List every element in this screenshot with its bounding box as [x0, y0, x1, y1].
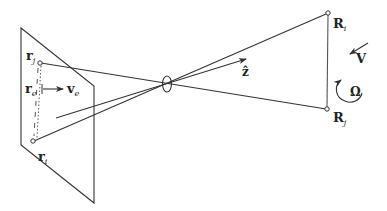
edge-Ri-Rj [327, 15, 328, 108]
ray-ri-Ri [34, 14, 326, 141]
label-R-j-base: R [333, 110, 344, 125]
label-r-e: re [25, 82, 37, 98]
label-r-e-sub: e [32, 89, 37, 98]
label-r-j-base: r [26, 48, 33, 63]
label-r-e-base: r [25, 81, 32, 96]
point-ri [31, 139, 35, 143]
label-R-j-sub: j [344, 118, 346, 127]
image-edge-dotted [37, 66, 41, 138]
ray-rj-Rj [41, 63, 326, 109]
label-Omega: Ω [350, 86, 361, 98]
label-r-i-base: r [38, 149, 45, 164]
point-Rj [325, 107, 329, 111]
label-r-i-sub: i [45, 157, 48, 166]
label-R-i-base: R [333, 16, 344, 31]
label-v-e-base: v [67, 81, 75, 96]
label-R-i: Ri [333, 17, 346, 33]
point-Ri [326, 11, 330, 15]
label-r-j-sub: j [33, 56, 35, 65]
label-R-j: Rj [333, 111, 346, 127]
label-v-e-sub: e [75, 89, 80, 98]
label-r-i: ri [38, 150, 47, 166]
label-v-e: ve [67, 82, 79, 98]
z-axis-arrow [56, 59, 246, 118]
diagram-canvas [0, 0, 387, 211]
label-r-j: rj [26, 49, 35, 65]
label-z-hat: ẑ [242, 66, 249, 78]
point-rj [38, 61, 42, 65]
label-V: V [356, 52, 366, 65]
label-R-i-sub: i [344, 24, 347, 33]
